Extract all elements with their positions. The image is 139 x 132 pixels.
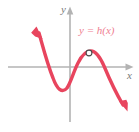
curve-start-arrow-icon xyxy=(31,26,43,39)
open-circle-marker xyxy=(86,50,92,56)
y-axis-label: y xyxy=(61,4,66,15)
graph-canvas xyxy=(0,0,139,132)
function-curve xyxy=(39,33,123,105)
graph-figure: y x y = h(x) xyxy=(0,0,139,132)
function-label: y = h(x) xyxy=(79,25,115,36)
y-axis-arrow-icon xyxy=(67,7,74,15)
curve-end-arrow-icon xyxy=(119,100,128,112)
x-axis-label: x xyxy=(127,70,132,81)
